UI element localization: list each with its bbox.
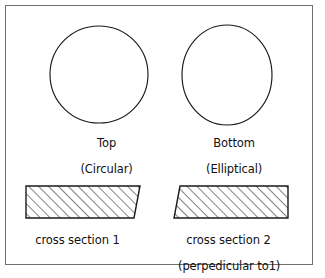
bottom-view-shape: (Elliptical) [206,162,262,176]
technical-diagram: Top (Circular) Bottom (Elliptical) cross… [0,0,325,278]
cross-section-1-label: cross section 1 [35,233,119,247]
top-view-caption: Top (Circular) [50,124,149,189]
top-circle-outline [50,26,148,123]
cross-section-1-caption: cross section 1 [21,221,191,260]
top-view-name: Top [97,136,116,150]
bottom-view-name: Bottom [213,136,255,150]
cross-section-2-label: cross section 2 [186,233,270,247]
bottom-view-caption: Bottom (Elliptical) [180,124,274,189]
cross-section-2-note: (perpedicular to1) [172,260,322,273]
top-view-shape: (Circular) [80,162,132,176]
bottom-ellipse-outline [182,25,272,125]
cross-section-2-caption: cross section 2 (perpedicular to1) [172,221,322,278]
